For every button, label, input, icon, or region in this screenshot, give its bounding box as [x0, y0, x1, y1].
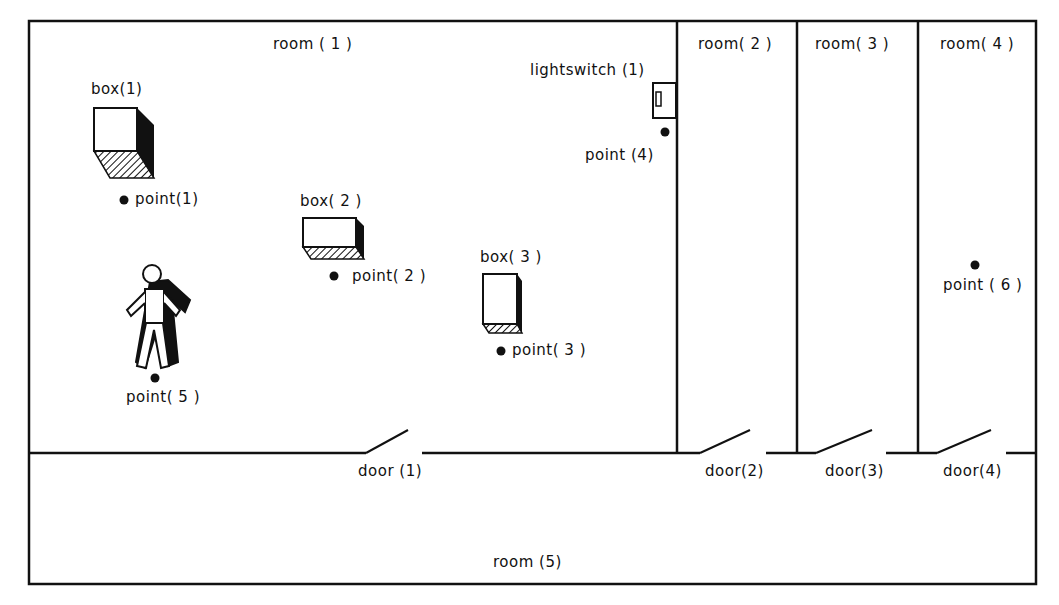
- point-1-label: point(1): [135, 190, 199, 208]
- floor-plan: [0, 0, 1059, 605]
- door-3-leaf: [816, 430, 872, 453]
- point-4-label: point (4): [585, 146, 654, 164]
- person-icon: [127, 265, 190, 368]
- lightswitch-icon: [653, 83, 676, 118]
- point-6-marker: [971, 261, 980, 270]
- room-1-label: room ( 1 ): [273, 35, 352, 53]
- room-2-label: room( 2 ): [698, 35, 772, 53]
- door-1-label: door (1): [358, 462, 422, 480]
- room-3-label: room( 3 ): [815, 35, 889, 53]
- point-6-label: point ( 6 ): [943, 276, 1022, 294]
- point-4-marker: [661, 128, 670, 137]
- door-4-leaf: [937, 430, 991, 453]
- box-2-icon: [303, 218, 364, 259]
- box-1-label: box(1): [91, 80, 142, 98]
- point-2-marker: [330, 272, 339, 281]
- box-2-label: box( 2 ): [300, 192, 362, 210]
- room-5-label: room (5): [493, 553, 562, 571]
- door-4-label: door(4): [943, 462, 1002, 480]
- point-3-marker: [497, 347, 506, 356]
- lightswitch-label: lightswitch (1): [530, 61, 645, 79]
- door-2-leaf: [700, 430, 750, 453]
- point-2-label: point( 2 ): [352, 267, 426, 285]
- point-5-marker: [151, 374, 160, 383]
- door-1-leaf: [366, 430, 408, 453]
- box-1-icon: [94, 108, 154, 178]
- box-3-icon: [483, 274, 522, 333]
- point-3-label: point( 3 ): [512, 341, 586, 359]
- room-4-label: room( 4 ): [940, 35, 1014, 53]
- point-5-label: point( 5 ): [126, 388, 200, 406]
- box-3-label: box( 3 ): [480, 248, 542, 266]
- door-2-label: door(2): [705, 462, 764, 480]
- door-3-label: door(3): [825, 462, 884, 480]
- point-1-marker: [120, 196, 129, 205]
